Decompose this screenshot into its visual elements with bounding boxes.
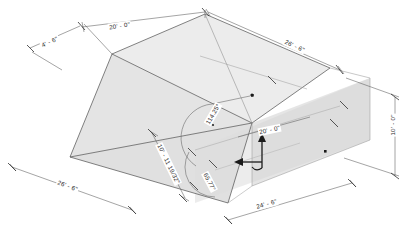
tick-a bbox=[27, 45, 34, 52]
edge-box-top-right bbox=[330, 68, 370, 78]
cad-viewport[interactable]: 4' - 6" 20' - 0" 26' - 6" 10' - 0" 24' -… bbox=[0, 0, 414, 244]
tick-h bbox=[348, 179, 356, 187]
grip-arc-node-a bbox=[212, 124, 214, 126]
tick-l bbox=[179, 194, 187, 202]
tick-i bbox=[8, 163, 16, 171]
tick-j bbox=[128, 206, 136, 214]
grip-square-b bbox=[251, 94, 254, 97]
dimline-bottom-right bbox=[228, 183, 352, 220]
tick-g bbox=[224, 216, 232, 224]
extline-top-left-a bbox=[32, 52, 62, 70]
dim-label-right-height[interactable]: 10' - 0" bbox=[389, 113, 397, 136]
extline-rh-bot bbox=[344, 158, 399, 176]
grip-square-a bbox=[324, 150, 327, 153]
tick-b bbox=[78, 22, 85, 30]
